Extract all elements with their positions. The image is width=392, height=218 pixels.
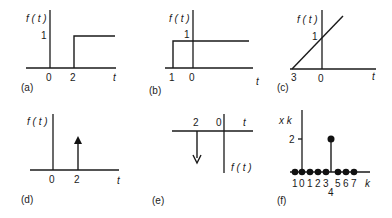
panel-caption: (e) [152, 195, 164, 206]
panel-e: 2 0 t f ( t ) (e) [152, 114, 253, 206]
y-tick-label: 2 [289, 134, 295, 145]
x-tick-label: 7 [351, 178, 357, 189]
x-tick-label: 2 [315, 178, 321, 189]
y-tick-label: 1 [312, 31, 318, 42]
x-axis-label: t [243, 117, 247, 128]
y-axis-label: x k [278, 115, 293, 126]
step-signal [173, 41, 249, 68]
y-axis-label: f ( t ) [27, 116, 48, 127]
x-tick-label: 2 [74, 174, 80, 185]
panel-caption: (c) [277, 82, 289, 93]
panel-a: f ( t ) 1 0 2 t (a) [21, 10, 117, 93]
x-tick-label: 1 [307, 178, 313, 189]
sample-dot [323, 169, 330, 176]
x-tick-label: 2 [70, 72, 76, 83]
panel-caption: (d) [21, 194, 33, 205]
y-axis-label: f ( t ) [169, 13, 190, 24]
x-tick-label: 1 [169, 72, 175, 83]
x-axis-label: k [365, 178, 371, 189]
y-tick-label: 1 [41, 30, 47, 41]
signals-figure: f ( t ) 1 0 2 t (a) f ( t ) 1 1 0 t (b) … [0, 0, 392, 218]
x-tick-label: 0 [299, 178, 305, 189]
sample-dot [315, 169, 322, 176]
x-tick-label: 0 [318, 73, 324, 84]
panel-d: f ( t ) 0 2 t (d) [21, 114, 121, 205]
sample-dot [299, 169, 306, 176]
x-tick-label: 2 [193, 117, 199, 128]
x-tick-label: 0 [46, 72, 52, 83]
x-tick-label: 0 [49, 174, 55, 185]
y-axis-label: f ( t ) [231, 162, 252, 173]
y-axis-label: f ( t ) [297, 14, 318, 25]
panel-caption: (b) [149, 85, 161, 96]
y-tick-label: 1 [184, 29, 190, 40]
y-axis-label: f ( t ) [26, 13, 47, 24]
panel-caption: (f) [277, 195, 286, 206]
x-tick-label: 0 [189, 72, 195, 83]
panel-caption: (a) [21, 82, 33, 93]
x-axis-label: t [113, 72, 117, 83]
x-axis-label: t [256, 76, 260, 87]
sample-dot [292, 169, 299, 176]
panel-f: x k 2 1 0 1 2 3 4 5 6 7 k (f) [277, 110, 371, 206]
panel-c: f ( t ) 1 3 0 t (c) [277, 10, 376, 93]
step-signal [74, 36, 115, 68]
sample-dot [343, 169, 350, 176]
x-tick-label: 0 [216, 117, 222, 128]
x-tick-label: 3 [291, 72, 297, 83]
sample-dot [351, 169, 358, 176]
impulse-arrowhead-icon [74, 136, 82, 144]
sample-dot [328, 136, 335, 143]
x-axis-label: t [372, 71, 376, 82]
sample-dot [307, 169, 314, 176]
x-tick-label: 6 [343, 178, 349, 189]
x-tick-label: 1 [292, 178, 298, 189]
x-axis-label: t [117, 175, 121, 186]
panel-b: f ( t ) 1 1 0 t (b) [149, 10, 260, 96]
sample-dot [335, 169, 342, 176]
x-tick-label: 5 [335, 178, 341, 189]
x-tick-label: 4 [328, 187, 334, 198]
